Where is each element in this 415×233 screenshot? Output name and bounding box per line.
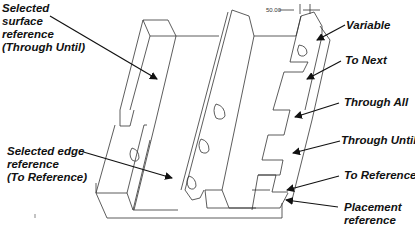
dimension-value: 50.00 (266, 7, 281, 13)
label-line: (Through Until) (2, 41, 85, 54)
label-line: (To Reference) (7, 171, 87, 184)
diagram-canvas: 50.00 Selected surface reference (Throug… (0, 0, 415, 233)
label-to-next: To Next (345, 54, 387, 67)
label-line: reference (2, 28, 85, 41)
label-variable: Variable (346, 19, 390, 32)
label-line: reference (7, 158, 87, 171)
label-through-until: Through Until (341, 134, 415, 147)
label-line: Selected (2, 2, 85, 15)
label-line: surface (2, 15, 85, 28)
label-line: reference (344, 214, 402, 227)
label-line: Selected edge (7, 145, 87, 158)
label-to-reference: To Reference (344, 169, 415, 182)
label-selected-edge-reference: Selected edge reference (To Reference) (7, 145, 87, 184)
label-through-all: Through All (344, 96, 408, 109)
label-line: Placement (344, 201, 402, 214)
label-selected-surface-reference: Selected surface reference (Through Unti… (2, 2, 85, 54)
label-placement-reference: Placement reference (344, 201, 402, 227)
